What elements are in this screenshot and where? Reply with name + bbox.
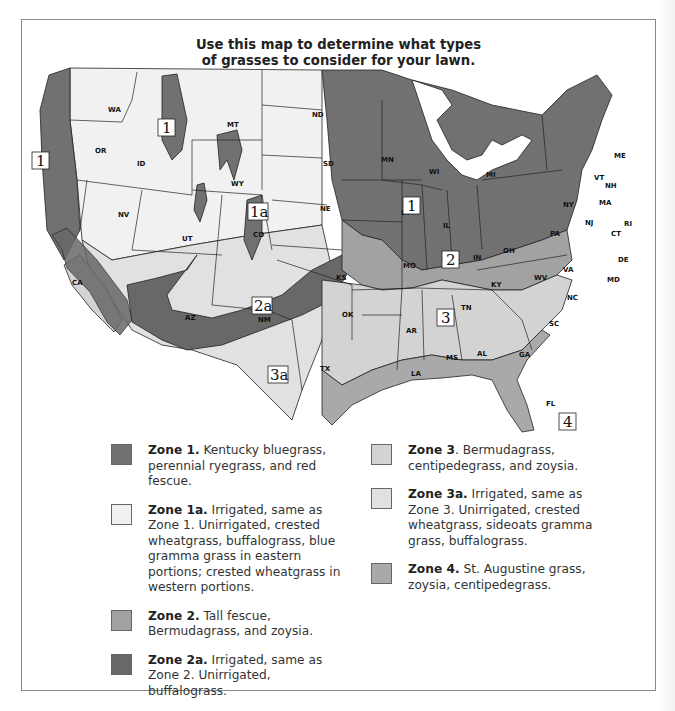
swatch-zone-1a bbox=[111, 504, 132, 525]
state-label-or: OR bbox=[95, 147, 107, 155]
state-label-ga: GA bbox=[519, 351, 531, 359]
zone-box-4: 4 bbox=[559, 413, 576, 431]
state-label-la: LA bbox=[411, 370, 421, 378]
state-label-nv: NV bbox=[118, 211, 130, 219]
swatch-zone-2 bbox=[111, 610, 132, 631]
state-label-nj: NJ bbox=[585, 219, 593, 227]
legend-zone-name: Zone 2. bbox=[148, 609, 200, 623]
us-grass-zone-map: WA OR CA ID NV MT WY UT AZ CO NM ND SD N… bbox=[22, 60, 657, 445]
state-label-sc: SC bbox=[549, 320, 559, 328]
zone-box-1-west: 1 bbox=[32, 152, 49, 170]
state-label-nd: ND bbox=[312, 111, 324, 119]
zone-box-3: 3 bbox=[437, 309, 454, 327]
state-label-ky: KY bbox=[491, 281, 502, 289]
svg-text:1a: 1a bbox=[250, 203, 269, 221]
figure-frame: Use this map to determine what types of … bbox=[21, 19, 656, 691]
svg-text:3: 3 bbox=[441, 309, 451, 327]
state-label-co: CO bbox=[253, 231, 264, 239]
state-label-id: ID bbox=[137, 160, 146, 168]
state-label-ca: CA bbox=[72, 279, 83, 287]
state-label-md: MD bbox=[607, 276, 620, 284]
legend-item-zone-2: Zone 2. Tall fescue, Bermudagrass, and z… bbox=[111, 609, 351, 640]
state-label-mo: MO bbox=[403, 262, 416, 270]
state-label-pa: PA bbox=[550, 230, 560, 238]
legend-item-zone-4: Zone 4. St. Augustine grass, zoysia, cen… bbox=[371, 562, 601, 593]
legend-zone-name: Zone 1. bbox=[148, 443, 200, 457]
state-label-ny: NY bbox=[563, 201, 575, 209]
state-label-in: IN bbox=[473, 254, 482, 262]
state-label-wi: WI bbox=[429, 168, 439, 176]
state-label-ar: AR bbox=[406, 327, 417, 335]
svg-text:1: 1 bbox=[162, 119, 172, 137]
legend-left-column: Zone 1. Kentucky bluegrass, perennial ry… bbox=[111, 443, 351, 711]
legend-right-column: Zone 3. Bermudagrass, centipedegrass, an… bbox=[371, 443, 601, 606]
swatch-zone-1 bbox=[111, 444, 132, 465]
legend-item-zone-3: Zone 3. Bermudagrass, centipedegrass, an… bbox=[371, 443, 601, 474]
state-label-ks: KS bbox=[336, 274, 346, 282]
state-label-mi: MI bbox=[486, 171, 496, 179]
state-label-tx: TX bbox=[320, 365, 331, 373]
state-label-sd: SD bbox=[323, 160, 334, 168]
state-label-ut: UT bbox=[182, 235, 193, 243]
title-line-1: Use this map to determine what types bbox=[22, 37, 655, 53]
state-label-va: VA bbox=[563, 266, 574, 274]
zone-box-1-rockies: 1 bbox=[158, 119, 175, 137]
state-label-vt: VT bbox=[594, 174, 604, 182]
state-label-ri: RI bbox=[624, 220, 632, 228]
state-label-il: IL bbox=[443, 222, 451, 230]
legend-item-zone-1a: Zone 1a. Irrigated, same as Zone 1. Unir… bbox=[111, 503, 351, 596]
state-label-wy: WY bbox=[231, 180, 245, 188]
state-label-nc: NC bbox=[567, 294, 578, 302]
zone-box-2: 2 bbox=[442, 251, 459, 269]
state-label-az: AZ bbox=[185, 314, 196, 322]
zone-box-1-midwest: 1 bbox=[403, 197, 420, 215]
state-label-ok: OK bbox=[342, 311, 354, 319]
legend-zone-name: Zone 3a. bbox=[408, 487, 468, 501]
zone-box-3a: 3a bbox=[268, 366, 289, 384]
state-label-tn: TN bbox=[461, 304, 472, 312]
state-label-me: ME bbox=[614, 152, 626, 160]
svg-text:4: 4 bbox=[563, 413, 573, 431]
page-edge-shadow bbox=[657, 0, 675, 711]
svg-text:2a: 2a bbox=[254, 297, 273, 315]
svg-text:1: 1 bbox=[407, 197, 417, 215]
swatch-zone-3 bbox=[371, 444, 392, 465]
state-label-fl: FL bbox=[546, 400, 556, 408]
state-label-al: AL bbox=[477, 350, 487, 358]
svg-text:3a: 3a bbox=[270, 366, 289, 384]
legend-zone-name: Zone 4. bbox=[408, 562, 460, 576]
legend-zone-name: Zone 3 bbox=[408, 443, 455, 457]
state-label-wa: WA bbox=[108, 106, 121, 114]
state-label-nm: NM bbox=[258, 316, 271, 324]
state-label-wv: WV bbox=[534, 274, 548, 282]
swatch-zone-2a bbox=[111, 654, 132, 675]
swatch-zone-3a bbox=[371, 488, 392, 509]
state-label-nh: NH bbox=[605, 182, 617, 190]
svg-text:1: 1 bbox=[36, 152, 46, 170]
legend-item-zone-1: Zone 1. Kentucky bluegrass, perennial ry… bbox=[111, 443, 351, 490]
state-label-mt: MT bbox=[227, 121, 239, 129]
swatch-zone-4 bbox=[371, 563, 392, 584]
legend-item-zone-2a: Zone 2a. Irrigated, same as Zone 2. Unir… bbox=[111, 653, 351, 700]
legend-zone-name: Zone 1a. bbox=[148, 503, 208, 517]
state-label-de: DE bbox=[618, 256, 629, 264]
state-label-ma: MA bbox=[599, 199, 612, 207]
state-label-ct: CT bbox=[611, 230, 621, 238]
state-label-oh: OH bbox=[503, 247, 515, 255]
zone-box-1a: 1a bbox=[248, 203, 269, 221]
state-label-ne: NE bbox=[320, 205, 331, 213]
legend-item-zone-3a: Zone 3a. Irrigated, same as Zone 3. Unir… bbox=[371, 487, 601, 549]
state-label-mn: MN bbox=[381, 156, 394, 164]
zone-box-2a: 2a bbox=[252, 297, 273, 315]
legend-zone-name: Zone 2a. bbox=[148, 653, 208, 667]
state-label-ms: MS bbox=[446, 354, 458, 362]
svg-text:2: 2 bbox=[446, 251, 456, 269]
